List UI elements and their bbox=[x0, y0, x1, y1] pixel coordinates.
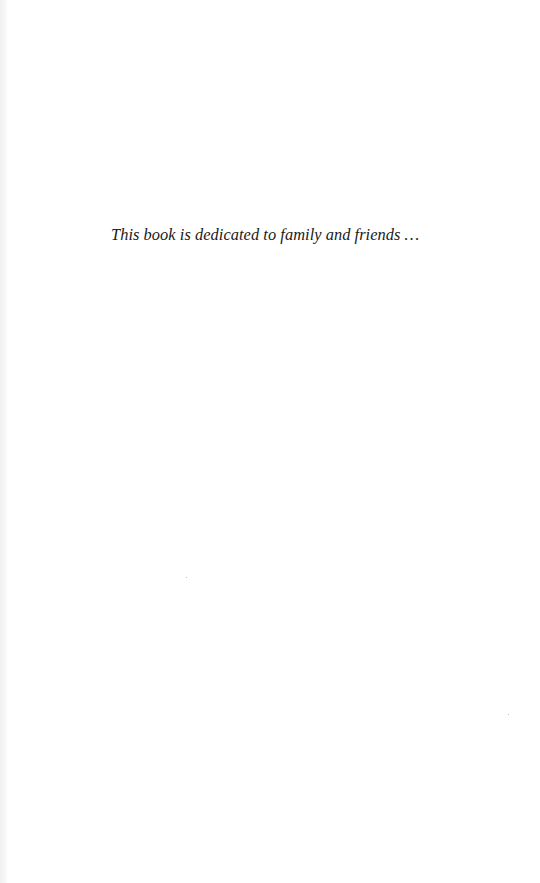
scan-speck bbox=[508, 714, 509, 715]
page-gutter-shadow bbox=[0, 0, 8, 883]
book-page: This book is dedicated to family and fri… bbox=[0, 0, 540, 883]
scan-speck bbox=[186, 577, 187, 578]
dedication-text: This book is dedicated to family and fri… bbox=[111, 225, 419, 245]
